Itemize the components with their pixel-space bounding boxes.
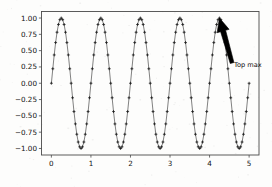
x-tick-label: 3 — [168, 159, 173, 168]
x-tick-label: 2 — [128, 159, 133, 168]
y-tick-label: −0.50 — [15, 111, 37, 120]
sine-wave-plot: 1.000.750.500.250.00−0.25−0.50−0.75−1.00… — [0, 0, 272, 187]
x-tick-label: 4 — [207, 159, 212, 168]
y-tick-label: −0.25 — [15, 95, 37, 104]
matplotlib-figure: 1.000.750.500.250.00−0.25−0.50−0.75−1.00… — [0, 0, 272, 187]
y-tick-label: 0.25 — [21, 62, 37, 71]
x-axis: 012345 — [49, 155, 251, 168]
data-series-sine — [50, 17, 251, 150]
x-tick-label: 0 — [49, 159, 54, 168]
y-tick-label: −0.75 — [15, 128, 37, 137]
y-tick-label: 0.75 — [21, 30, 37, 39]
scan-noise — [0, 0, 272, 187]
annotation-arrow-icon — [217, 18, 234, 63]
annotation-label: Top max — [233, 61, 262, 69]
y-tick-label: 0.00 — [21, 79, 37, 88]
y-tick-label: 0.50 — [21, 46, 37, 55]
y-tick-label: 1.00 — [21, 14, 37, 23]
x-tick-label: 1 — [89, 159, 94, 168]
y-tick-label: −1.00 — [15, 144, 37, 153]
y-axis: 1.000.750.500.250.00−0.25−0.50−0.75−1.00 — [15, 14, 42, 153]
x-tick-label: 5 — [247, 159, 252, 168]
annotation-top-max: Top max — [217, 18, 262, 69]
data-markers — [50, 17, 251, 150]
